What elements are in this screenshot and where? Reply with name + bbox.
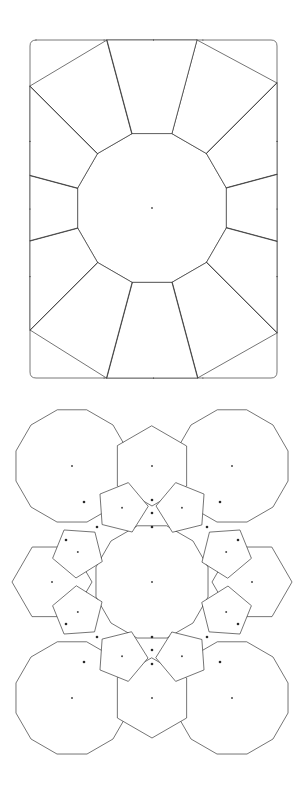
shared-vertex-dot	[219, 661, 222, 664]
center-dot-marker	[151, 581, 153, 583]
figure-bottom-canvas	[0, 394, 308, 788]
frame-tick	[29, 141, 30, 142]
pentagon-ring-5-center-dot	[121, 655, 123, 657]
shared-vertex-dot	[83, 501, 86, 504]
center-dot-marker	[151, 207, 153, 209]
shared-vertex-dot	[206, 526, 209, 529]
shared-vertex-dot	[219, 501, 222, 504]
pentagon-ring-1-center-dot	[181, 507, 183, 509]
frame-tick	[202, 377, 203, 378]
shared-vertex-dot	[237, 623, 240, 626]
shared-vertex-dot	[65, 623, 68, 626]
frame-tick	[153, 39, 154, 40]
hexagon-left-center-dot	[51, 581, 53, 583]
frame-tick	[29, 276, 30, 277]
shared-vertex-dot	[96, 636, 99, 639]
tiling-group-top	[29, 39, 277, 378]
frame-tick	[153, 377, 154, 378]
shared-vertex-dot	[151, 526, 154, 529]
corner-dodecagon-center-dot	[71, 697, 73, 699]
tiling-group-bottom	[12, 410, 292, 754]
hexagon-right-center-dot	[251, 581, 253, 583]
corner-dodecagon-center-dot	[71, 465, 73, 467]
frame-tick	[276, 208, 277, 209]
figure-bottom	[0, 394, 308, 788]
corner-dodecagon-center-dot	[231, 697, 233, 699]
frame-tick	[104, 377, 105, 378]
hexagon-top-center-dot	[151, 465, 153, 467]
frame-tick	[104, 39, 105, 40]
figure-top-canvas	[0, 0, 308, 394]
frame-tick	[202, 39, 203, 40]
pentagon-ring-2-center-dot	[225, 551, 227, 553]
frame-tick	[29, 208, 30, 209]
figure-top	[0, 0, 308, 394]
shared-vertex-dot	[83, 661, 86, 664]
shared-vertex-dot	[151, 512, 154, 515]
shared-vertex-dot	[237, 539, 240, 542]
shared-vertex-dot	[96, 526, 99, 529]
shared-vertex-dot	[151, 499, 154, 502]
shared-vertex-dot	[206, 636, 209, 639]
figure-page	[0, 0, 308, 788]
pentagon-ring-8-center-dot	[121, 507, 123, 509]
pentagon-ring-4-center-dot	[181, 655, 183, 657]
frame-tick	[276, 141, 277, 142]
pentagon-ring-7-center-dot	[77, 551, 79, 553]
pentagon-ring-3-center-dot	[225, 611, 227, 613]
shared-vertex-dot	[151, 636, 154, 639]
pentagon-ring-6-center-dot	[77, 611, 79, 613]
frame-tick	[276, 276, 277, 277]
hexagon-bottom-center-dot	[151, 697, 153, 699]
shared-vertex-dot	[65, 539, 68, 542]
corner-dodecagon-center-dot	[231, 465, 233, 467]
shared-vertex-dot	[151, 649, 154, 652]
shared-vertex-dot	[151, 663, 154, 666]
